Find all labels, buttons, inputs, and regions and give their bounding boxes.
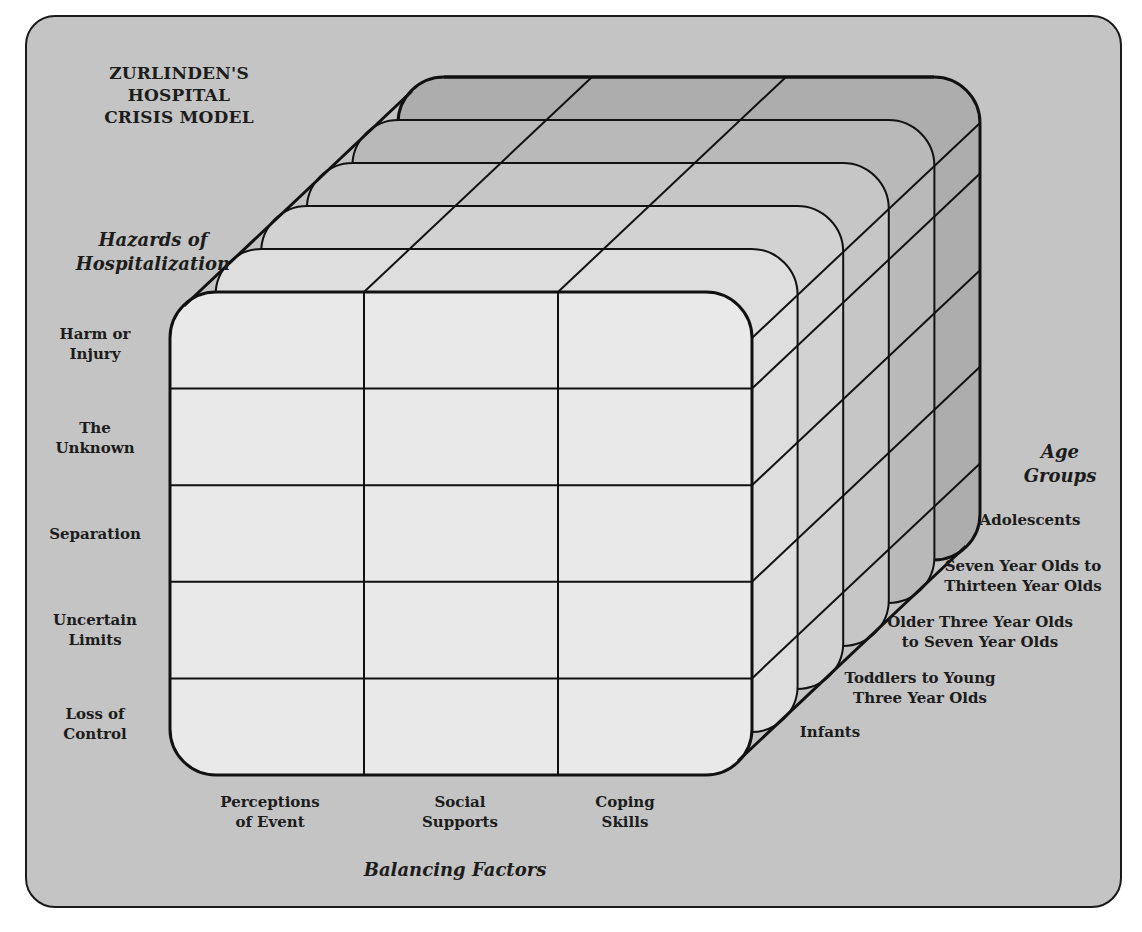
axis-label-balancing-factors: Balancing Factors bbox=[340, 858, 570, 882]
diagram-title: ZURLINDEN'S HOSPITAL CRISIS MODEL bbox=[64, 62, 294, 128]
hazard-label-harm-or-injury: Harm or Injury bbox=[30, 324, 160, 364]
hazard-label-separation: Separation bbox=[30, 524, 160, 544]
balancing-label-perceptions-of-event: Perceptions of Event bbox=[195, 792, 345, 832]
balancing-label-social-supports: Social Supports bbox=[385, 792, 535, 832]
age-label-adolescents: Adolescents bbox=[960, 510, 1100, 530]
axis-label-hazards: Hazards of Hospitalization bbox=[58, 228, 248, 276]
balancing-label-coping-skills: Coping Skills bbox=[560, 792, 690, 832]
age-label-older-three-to-seven: Older Three Year Olds to Seven Year Olds bbox=[862, 612, 1098, 652]
hazard-label-the-unknown: The Unknown bbox=[30, 418, 160, 458]
age-label-toddlers: Toddlers to Young Three Year Olds bbox=[820, 668, 1020, 708]
hazard-label-uncertain-limits: Uncertain Limits bbox=[30, 610, 160, 650]
hazard-label-loss-of-control: Loss of Control bbox=[30, 704, 160, 744]
axis-label-age-groups: Age Groups bbox=[1010, 440, 1110, 488]
age-label-infants: Infants bbox=[770, 722, 890, 742]
age-label-seven-to-thirteen: Seven Year Olds to Thirteen Year Olds bbox=[920, 556, 1126, 596]
cube-layer-0 bbox=[170, 292, 752, 775]
